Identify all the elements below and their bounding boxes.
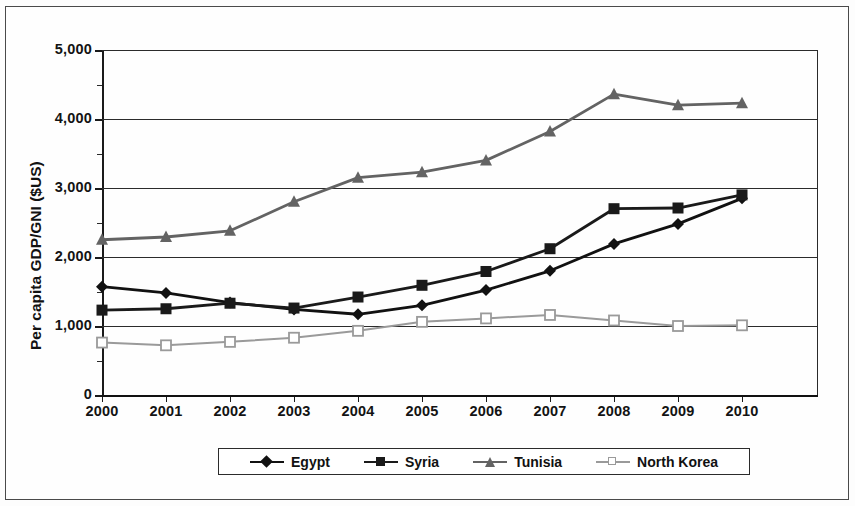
legend-item-syria[interactable]: Syria bbox=[364, 454, 439, 470]
filled-square-icon bbox=[376, 457, 385, 466]
legend-label: North Korea bbox=[637, 454, 718, 470]
x-tick-label: 2005 bbox=[392, 403, 452, 419]
x-tick-label: 2003 bbox=[264, 403, 324, 419]
x-tick-label: 2008 bbox=[584, 403, 644, 419]
plot-border bbox=[102, 50, 818, 395]
y-tick-mark bbox=[95, 257, 102, 259]
chart-figure: Per capita GDP/GNI ($US) 01,0002,0003,00… bbox=[0, 0, 855, 506]
x-tick-label: 2004 bbox=[328, 403, 388, 419]
x-tick-label: 2001 bbox=[136, 403, 196, 419]
gridline-3000 bbox=[102, 188, 818, 189]
y-tick-label: 1,000 bbox=[6, 317, 92, 333]
x-tick-label: 2010 bbox=[712, 403, 772, 419]
y-tick-label: 5,000 bbox=[6, 41, 92, 57]
y-axis-label-wrapper: Per capita GDP/GNI ($US) bbox=[14, 60, 40, 360]
y-tick-mark bbox=[95, 50, 102, 52]
x-tick-label: 2006 bbox=[456, 403, 516, 419]
legend-swatch bbox=[250, 455, 284, 469]
x-tick-label: 2007 bbox=[520, 403, 580, 419]
filled-diamond-icon bbox=[260, 455, 273, 468]
x-tick-label: 2002 bbox=[200, 403, 260, 419]
legend-swatch bbox=[364, 455, 398, 469]
y-tick-mark bbox=[95, 395, 102, 397]
y-tick-mark bbox=[95, 326, 102, 328]
gridline-0 bbox=[102, 395, 818, 397]
y-tick-mark bbox=[95, 119, 102, 121]
legend-label: Tunisia bbox=[514, 454, 562, 470]
open-square-icon bbox=[608, 457, 616, 465]
legend-swatch bbox=[473, 455, 507, 469]
gridline-5000 bbox=[102, 50, 818, 51]
filled-triangle-icon bbox=[485, 457, 495, 467]
legend-label: Syria bbox=[405, 454, 439, 470]
x-tick-label: 2000 bbox=[72, 403, 132, 419]
legend-item-egypt[interactable]: Egypt bbox=[250, 454, 330, 470]
y-tick-label: 2,000 bbox=[6, 248, 92, 264]
gridline-1000 bbox=[102, 326, 818, 327]
y-tick-label: 3,000 bbox=[6, 179, 92, 195]
gridline-4000 bbox=[102, 119, 818, 120]
legend-item-north-korea[interactable]: North Korea bbox=[596, 454, 718, 470]
y-tick-label: 0 bbox=[6, 386, 92, 402]
legend-label: Egypt bbox=[291, 454, 330, 470]
y-tick-label: 4,000 bbox=[6, 110, 92, 126]
legend-item-tunisia[interactable]: Tunisia bbox=[473, 454, 562, 470]
chart-legend: EgyptSyriaTunisiaNorth Korea bbox=[218, 448, 750, 475]
plot-area bbox=[102, 50, 818, 395]
gridline-2000 bbox=[102, 257, 818, 258]
legend-swatch bbox=[596, 455, 630, 469]
x-tick-label: 2009 bbox=[648, 403, 708, 419]
y-tick-mark bbox=[95, 188, 102, 190]
